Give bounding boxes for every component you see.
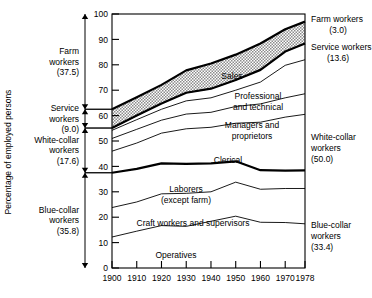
plot-label-professional-and-technical: and technical <box>233 102 283 112</box>
plot-label-clerical: Clerical <box>214 155 242 165</box>
y-axis-title: Percentage of employed persons <box>3 90 13 215</box>
plot-label-sales: Sales <box>221 71 242 81</box>
right-label-service-workers: (13.6) <box>327 53 349 63</box>
bracket-label-service-workers: workers <box>48 114 79 124</box>
plot-label-laborers-except-farm: (except farm) <box>161 195 211 205</box>
bracket-label-service-workers: Service <box>51 103 80 113</box>
x-tick-label: 1910 <box>127 273 146 283</box>
y-tick-label: 70 <box>99 85 109 95</box>
y-tick-label: 60 <box>99 111 109 121</box>
x-tick-label: 1960 <box>251 273 270 283</box>
x-tick-label: 1978 <box>296 273 315 283</box>
y-tick-label: 10 <box>99 238 109 248</box>
plot-label-professional-and-technical: Professional <box>235 91 282 101</box>
bracket-label-blue-collar-workers: (35.8) <box>57 226 79 236</box>
stacked-area-bands <box>112 14 305 268</box>
right-label-blue-collar-workers: (33.4) <box>311 242 333 252</box>
plot-label-laborers-except-farm: Laborers <box>169 184 203 194</box>
bracket-label-farm-workers: Farm <box>59 46 79 56</box>
bracket-label-farm-workers: (37.5) <box>57 67 79 77</box>
y-tick-label: 80 <box>99 60 109 70</box>
x-tick-label: 1920 <box>152 273 171 283</box>
y-tick-label: 20 <box>99 212 109 222</box>
y-tick-label: 40 <box>99 162 109 172</box>
bracket-label-blue-collar-workers: Blue-collar <box>39 205 79 215</box>
x-tick-label: 1950 <box>226 273 245 283</box>
y-tick-label: 100 <box>94 9 108 19</box>
chart-figure: Percentage of employed persons Farmworke… <box>0 0 372 298</box>
right-label-farm-workers: (3.0) <box>329 25 347 35</box>
y-tick-label: 90 <box>99 35 109 45</box>
bracket-label-white-collar-workers: workers <box>48 145 79 155</box>
bracket-label-white-collar-workers: (17.6) <box>57 156 79 166</box>
occupation-shares-area-chart: Percentage of employed persons Farmworke… <box>0 0 372 298</box>
x-tick-label: 1940 <box>202 273 221 283</box>
right-label-white-collar-workers: White-collar <box>311 132 356 142</box>
plot-label-managers-and-proprietors: proprietors <box>232 131 273 141</box>
right-label-white-collar-workers: workers <box>310 143 341 153</box>
right-label-farm-workers: Farm workers <box>311 14 363 24</box>
x-tick-label: 1900 <box>103 273 122 283</box>
plot-label-managers-and-proprietors: Managers and <box>225 120 280 130</box>
right-label-service-workers: Service workers <box>311 42 371 52</box>
right-label-blue-collar-workers: workers <box>310 231 341 241</box>
right-label-blue-collar-workers: Blue-collar <box>311 220 351 230</box>
y-tick-label: 50 <box>99 136 109 146</box>
bracket-label-blue-collar-workers: workers <box>48 215 79 225</box>
plot-label-craft-workers: Craft workers and supervisors <box>137 218 250 228</box>
y-tick-label: 30 <box>99 187 109 197</box>
y-tick-label: 0 <box>103 263 108 273</box>
plot-label-operatives: Operatives <box>155 250 196 260</box>
bracket-label-farm-workers: workers <box>48 57 79 67</box>
x-tick-label: 1970 <box>276 273 295 283</box>
x-tick-label: 1930 <box>177 273 196 283</box>
bracket-label-white-collar-workers: White-collar <box>34 135 79 145</box>
right-label-white-collar-workers: (50.0) <box>311 154 333 164</box>
bracket-label-service-workers: (9.0) <box>62 124 80 134</box>
